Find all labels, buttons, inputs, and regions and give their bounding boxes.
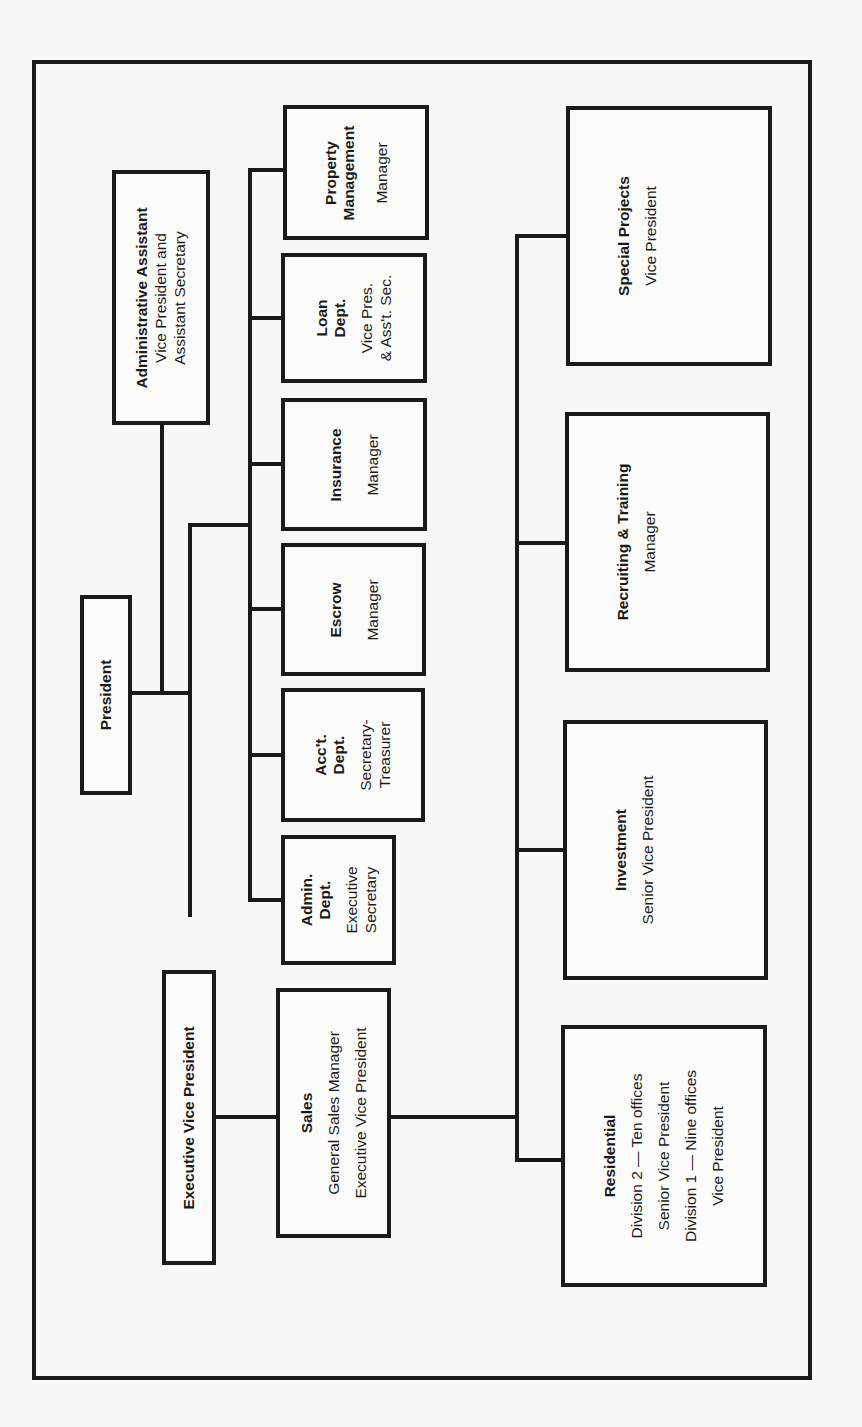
residential-line-1: Division 2 — Ten offices — [627, 1074, 646, 1239]
president-title: President — [97, 660, 115, 731]
dept-loan-line-1: Vice Pres. — [357, 283, 376, 353]
investment-title: Investment — [611, 809, 629, 891]
dept-admin-line-2: Secretary — [361, 867, 380, 933]
dept-loan-box: Loan Dept. Vice Pres. & Ass't. Sec. — [281, 253, 427, 383]
sales-line-2: Executive Vice President — [351, 1027, 370, 1198]
sales-line-1: General Sales Manager — [324, 1031, 343, 1195]
sales-title: Sales — [298, 1093, 316, 1134]
executive-vp-box: Executive Vice President — [162, 970, 216, 1265]
admin-assistant-title: Administrative Assistant — [133, 207, 151, 388]
dept-admin-line-1: Executive — [342, 866, 361, 933]
unit-special-projects-box: Special Projects Vice President — [566, 106, 772, 366]
president-box: President — [80, 595, 132, 795]
dept-admin-title-2: Dept. — [316, 881, 334, 920]
unit-residential-box: Residential Division 2 — Ten offices Sen… — [561, 1025, 767, 1287]
dept-accounting-line-1: Secretary- — [356, 719, 375, 791]
dept-escrow-title: Escrow — [326, 582, 344, 637]
dept-insurance-line-1: Manager — [363, 434, 382, 495]
dept-property-title-1: Property — [322, 141, 340, 205]
dept-escrow-box: Escrow Manager — [281, 543, 426, 676]
dept-accounting-box: Acc't. Dept. Secretary- Treasurer — [281, 688, 425, 822]
recruiting-title: Recruiting & Training — [613, 464, 631, 621]
unit-investment-box: Investment Senior Vice President — [563, 720, 768, 980]
residential-title: Residential — [601, 1115, 619, 1198]
dept-admin-title-1: Admin. — [298, 874, 316, 927]
admin-assistant-line-2: Assistant Secretary — [170, 231, 189, 365]
dept-insurance-box: Insurance Manager — [281, 398, 427, 531]
residential-line-4: Vice President — [708, 1106, 727, 1206]
dept-loan-title-1: Loan — [313, 299, 331, 336]
dept-loan-title-2: Dept. — [331, 299, 349, 338]
dept-loan-line-2: & Ass't. Sec. — [376, 275, 395, 362]
unit-recruiting-box: Recruiting & Training Manager — [565, 412, 770, 672]
dept-accounting-title-2: Dept. — [330, 736, 348, 775]
dept-escrow-line-1: Manager — [362, 579, 381, 640]
special-projects-line-1: Vice President — [641, 186, 660, 286]
dept-accounting-line-2: Treasurer — [375, 722, 394, 789]
dept-property-line-1: Manager — [372, 142, 391, 203]
dept-property-title-2: Management — [340, 125, 358, 220]
admin-assistant-box: Administrative Assistant Vice President … — [112, 170, 210, 425]
residential-line-3: Division 1 — Nine offices — [681, 1070, 700, 1242]
dept-property-box: Property Management Manager — [283, 105, 429, 240]
investment-line-1: Senior Vice President — [637, 776, 656, 925]
executive-vp-title: Executive Vice President — [180, 1026, 198, 1209]
special-projects-title: Special Projects — [615, 176, 633, 296]
sales-box: Sales General Sales Manager Executive Vi… — [276, 988, 391, 1238]
admin-assistant-line-1: Vice President and — [151, 233, 170, 363]
dept-admin-box: Admin. Dept. Executive Secretary — [281, 835, 396, 965]
dept-insurance-title: Insurance — [327, 428, 345, 501]
residential-line-2: Senior Vice President — [654, 1082, 673, 1231]
dept-accounting-title-1: Acc't. — [312, 734, 330, 776]
recruiting-line-1: Manager — [639, 511, 658, 572]
